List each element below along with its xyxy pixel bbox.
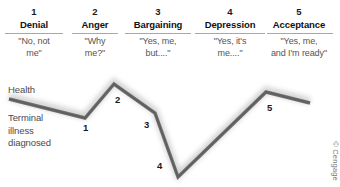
curve-point-4: 4 [157,160,162,171]
stage-quote-line1: "Why [69,36,121,48]
curve-point-1: 1 [83,122,88,133]
stage-divider [195,33,265,34]
stage-quote-line1: "Yes, me, [123,36,193,48]
stage-number: 2 [69,6,121,18]
axis-label-diagnosed: Terminal illness diagnosed [8,112,51,150]
copyright-credit: © Cengage [331,141,340,181]
stage-quote-line2: me" [1,48,67,60]
stage-divider [125,33,191,34]
curve-point-2: 2 [115,94,120,105]
stage-header-row: 1 Denial "No, not me" 2 Anger "Why me?" … [0,6,332,59]
stage-divider [72,33,118,34]
stage-divider [267,33,333,34]
stage-name: Anger [69,18,121,31]
stage-quote-line1: "Yes, it's [195,36,265,48]
stage-column-depression: 4 Depression "Yes, it's me...." [194,6,266,59]
stage-name: Acceptance [267,18,331,31]
stage-number: 3 [123,6,193,18]
stage-quote-line2: but...." [123,48,193,60]
stage-column-bargaining: 3 Bargaining "Yes, me, but...." [122,6,194,59]
axis-label-diagnosed-line1: Terminal [8,112,51,125]
axis-label-diagnosed-line3: diagnosed [8,137,51,150]
stage-name: Bargaining [123,18,193,31]
stage-column-acceptance: 5 Acceptance "Yes, me, and I'm ready" [266,6,332,59]
curve-point-5: 5 [267,102,272,113]
axis-label-diagnosed-line2: illness [8,125,51,138]
curve-point-3: 3 [144,119,149,130]
stage-quote-line2: and I'm ready" [267,48,331,60]
stage-name: Depression [195,18,265,31]
stage-column-anger: 2 Anger "Why me?" [68,6,122,59]
stage-divider [5,33,63,34]
stage-name: Denial [1,18,67,31]
stage-quote-line1: "No, not [1,36,67,48]
stage-column-denial: 1 Denial "No, not me" [0,6,68,59]
stage-quote-line2: me?" [69,48,121,60]
stage-number: 4 [195,6,265,18]
stage-quote-line2: me...." [195,48,265,60]
stage-number: 1 [1,6,67,18]
stage-quote-line1: "Yes, me, [267,36,331,48]
stage-number: 5 [267,6,331,18]
axis-label-health: Health [8,84,35,97]
